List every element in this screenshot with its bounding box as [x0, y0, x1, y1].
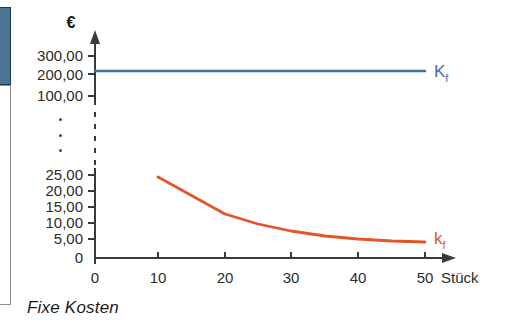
y-label-100: 100,00 [37, 87, 83, 104]
y-label-20: 20,00 [45, 182, 83, 199]
x-label-40: 40 [350, 269, 367, 286]
series-line-fixed-unit [158, 177, 425, 242]
series-label-fixed-unit: kf [434, 229, 447, 251]
y-label-25: 25,00 [45, 166, 83, 183]
x-axis-unit-label: Stück [441, 269, 479, 286]
y-label-200: 200,00 [37, 66, 83, 83]
y-label-5: 5,00 [54, 230, 83, 247]
x-label-20: 20 [217, 269, 234, 286]
fixed-costs-chart: € 300,00 200,00 100,00 25,00 20,00 15,00… [0, 0, 505, 328]
y-label-300: 300,00 [37, 47, 83, 64]
y-label-15: 15,00 [45, 198, 83, 215]
y-label-0: 0 [75, 249, 83, 266]
y-axis-unit-label: € [67, 14, 76, 31]
chart-caption: Fixe Kosten [27, 298, 119, 318]
x-axis-arrowhead [442, 253, 456, 263]
y-label-10: 10,00 [45, 214, 83, 231]
series-label-fixed-total: Kf [434, 62, 449, 84]
y-axis-arrowhead [90, 30, 100, 44]
x-label-0: 0 [91, 269, 99, 286]
x-label-10: 10 [150, 269, 167, 286]
x-label-50: 50 [417, 269, 434, 286]
axis-break-ellipsis-icon [55, 118, 65, 152]
x-label-30: 30 [283, 269, 300, 286]
